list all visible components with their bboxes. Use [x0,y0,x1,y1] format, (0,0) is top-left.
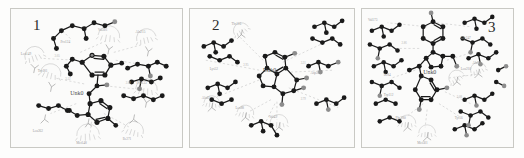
three-panel-ligand-interaction-figure: Unk0 Leu149 Val201 Ala215 Trp181 Phe133 … [0,0,524,158]
panel-number-1: 1 [33,18,41,33]
panel-number-3: 3 [488,20,496,35]
ligand-label: Unk0 [263,67,276,73]
residue-label: Ala215 [136,30,146,34]
ligand-label: Unk0 [70,90,83,96]
panel-number-2: 2 [212,18,220,33]
residue-label: Val201 [98,28,108,32]
panel-1: Unk0 Leu149 Val201 Ala215 Trp181 Phe133 … [10,8,183,148]
residue-label: Leu149 [21,52,32,56]
residue-label: Val173 [368,18,378,22]
residue-label: Gly247 [461,36,471,40]
residue-label: Lys52 [210,67,219,71]
hbond-distance-label: 3.05 [54,54,60,58]
residue-label: Leu88 [235,106,244,110]
residue-label: Leu262 [33,129,44,133]
residue-label: Ala61 [202,96,211,100]
residue-label: Pro124 [60,40,70,44]
residue-label: Tyr56 [455,116,463,120]
ligand-atoms [201,18,346,137]
hbond-distance-label: 3.12 [65,77,71,81]
residue-label: Met148 [76,141,87,145]
hbond-distance-label: 2.88 [126,81,132,85]
residue-label: Ile271 [123,137,132,141]
hbond-distance-label: 2.79 [301,97,307,101]
residue-label: Trp181 [38,69,48,73]
hbond-distance-label: 2.86 [401,41,407,45]
residue-label: Thr116 [231,22,241,26]
residue-label: Asp205 [311,71,322,75]
hbond-distance-label: 2.95 [243,63,249,67]
hydrogen-bond-lines [41,31,152,134]
panel-2: Unk0 Thr116 Leu88 Val45 Ala61 Asp205 Lys… [189,8,355,148]
residue-sidechain-bonds [403,69,482,141]
hbond-distance-label: 3.08 [457,95,463,99]
heteroatoms [279,51,340,112]
ligand-label: Unk0 [423,69,436,75]
residue-label: Ile84 [384,73,391,77]
residue-label: Val45 [269,115,277,119]
residue-label: Phe133 [137,81,147,85]
panel-3: Unk0 Val173 Leu210 Ala99 Phe286 Met301 I… [361,8,514,148]
residue-label: Met301 [417,141,428,145]
residue-label: Trp112 [384,93,394,97]
residue-label: Leu210 [461,67,472,71]
hbond-distance-label: 3.21 [301,61,307,65]
residue-label: Phe286 [396,116,406,120]
residue-label: Ala99 [473,61,482,65]
